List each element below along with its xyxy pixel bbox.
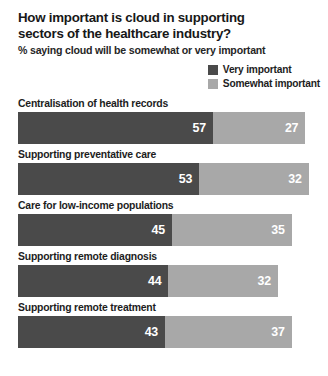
bar-segment-very-important: 43 xyxy=(18,316,165,348)
bar-value-label: 35 xyxy=(271,223,284,237)
bar-segment-very-important: 44 xyxy=(18,265,168,297)
bar-value-label: 32 xyxy=(258,274,271,288)
legend-label: Somewhat important xyxy=(223,78,320,90)
bar-value-label: 44 xyxy=(148,274,161,288)
bar-group: Supporting remote diagnosis4432 xyxy=(0,250,328,297)
bar-value-label: 57 xyxy=(193,121,206,135)
chart-title-line-2: sectors of the healthcare industry? xyxy=(18,26,231,41)
chart-legend: Very important Somewhat important xyxy=(208,64,320,90)
legend-swatch-icon xyxy=(208,65,218,75)
bar-segment-very-important: 57 xyxy=(18,112,213,144)
chart-subtitle: % saying cloud will be somewhat or very … xyxy=(18,44,314,57)
bar-group: Supporting preventative care5332 xyxy=(0,148,328,195)
bar-track: 4432 xyxy=(18,265,328,297)
bar-track: 4535 xyxy=(18,214,328,246)
chart-title-line-1: How important is cloud in supporting xyxy=(18,10,245,25)
legend-item-somewhat-important: Somewhat important xyxy=(208,78,320,90)
bar-track: 5332 xyxy=(18,163,328,195)
bar-track: 4337 xyxy=(18,316,328,348)
bar-value-label: 32 xyxy=(288,172,301,186)
bar-category-label: Supporting remote treatment xyxy=(18,301,328,314)
bar-category-label: Supporting preventative care xyxy=(18,148,328,161)
bar-segment-somewhat-important: 32 xyxy=(168,265,277,297)
bar-segment-somewhat-important: 35 xyxy=(172,214,292,246)
bar-value-label: 53 xyxy=(179,172,192,186)
legend-item-very-important: Very important xyxy=(208,64,292,76)
bar-group: Centralisation of health records5727 xyxy=(0,97,328,144)
bar-segment-somewhat-important: 32 xyxy=(199,163,308,195)
bar-category-label: Care for low-income populations xyxy=(18,199,328,212)
bar-value-label: 45 xyxy=(152,223,165,237)
bar-value-label: 43 xyxy=(145,325,158,339)
bar-segment-very-important: 53 xyxy=(18,163,199,195)
bar-group: Supporting remote treatment4337 xyxy=(0,301,328,348)
bar-segment-somewhat-important: 27 xyxy=(213,112,305,144)
bar-group: Care for low-income populations4535 xyxy=(0,199,328,246)
bar-segment-somewhat-important: 37 xyxy=(165,316,292,348)
bar-segment-very-important: 45 xyxy=(18,214,172,246)
page-title: How important is cloud in supporting sec… xyxy=(18,10,314,42)
legend-swatch-icon xyxy=(208,79,218,89)
bar-category-label: Supporting remote diagnosis xyxy=(18,250,328,263)
bars-area: Centralisation of health records5727Supp… xyxy=(0,97,328,352)
legend-label: Very important xyxy=(223,64,292,76)
chart-header: How important is cloud in supporting sec… xyxy=(0,0,328,57)
chart-container: How important is cloud in supporting sec… xyxy=(0,0,328,376)
bar-category-label: Centralisation of health records xyxy=(18,97,328,110)
bar-value-label: 27 xyxy=(285,121,298,135)
bar-track: 5727 xyxy=(18,112,328,144)
bar-value-label: 37 xyxy=(271,325,284,339)
